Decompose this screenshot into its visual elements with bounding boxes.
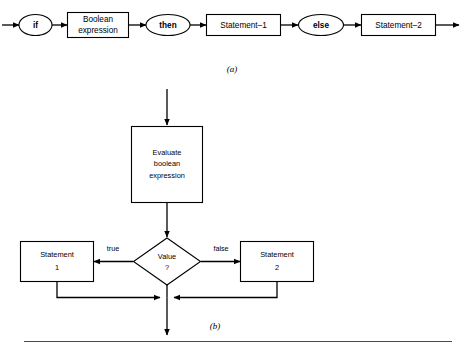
figure-canvas: if Boolean expression then Statement–1 e… [0, 0, 464, 352]
flow-process-line1: Evaluate [153, 148, 182, 157]
syntax-node-else-label: else [313, 21, 329, 30]
flow-decision-line2: ? [165, 263, 169, 272]
caption-a: (a) [227, 64, 238, 74]
flow-box-statement-2-line1: Statement [260, 250, 294, 259]
flow-decision-value [134, 238, 201, 285]
syntax-node-boolean-line2: expression [78, 26, 118, 35]
caption-b: (b) [210, 321, 221, 331]
flow-process-line3: expression [149, 171, 185, 180]
edge-label-true: true [107, 244, 119, 253]
syntax-node-boolean-line1: Boolean [83, 15, 113, 24]
merge-path-right [174, 282, 277, 298]
flow-box-statement-2-line2: 2 [275, 263, 279, 272]
flow-box-statement-1-line2: 1 [55, 263, 59, 272]
syntax-node-if-label: if [33, 21, 38, 30]
syntax-node-statement-2-label: Statement–2 [375, 21, 422, 30]
syntax-node-then-label: then [159, 21, 176, 30]
syntax-node-statement-1-label: Statement–1 [220, 21, 267, 30]
flow-decision-line1: Value [158, 252, 176, 261]
merge-path-left [57, 282, 160, 298]
flow-process-line2: boolean [154, 159, 180, 168]
diagram-svg: if Boolean expression then Statement–1 e… [0, 0, 464, 352]
flow-box-statement-1 [21, 242, 94, 282]
flow-box-statement-1-line1: Statement [40, 250, 74, 259]
flow-box-statement-2 [241, 242, 314, 282]
edge-label-false: false [213, 244, 228, 253]
